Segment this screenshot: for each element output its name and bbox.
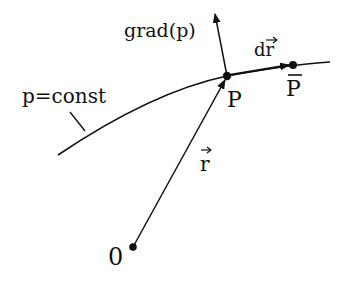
grad-label: grad(p) (124, 19, 196, 41)
point-P-bar (289, 61, 297, 69)
point-P-bar-label: P (286, 76, 301, 101)
r-label: r (200, 152, 210, 176)
point-P (223, 72, 231, 80)
displacement-vector (229, 65, 289, 75)
dr-label: dr (254, 39, 275, 60)
gradient-vector (215, 14, 227, 76)
position-vector (133, 80, 225, 247)
gradient-diagram: grad(p) dr p=const P P r 0 (0, 0, 345, 282)
label-leader-line (70, 112, 85, 131)
p-const-label: p=const (22, 84, 106, 108)
point-P-label: P (227, 87, 242, 112)
origin-label: 0 (108, 243, 123, 271)
origin-point (129, 243, 137, 251)
